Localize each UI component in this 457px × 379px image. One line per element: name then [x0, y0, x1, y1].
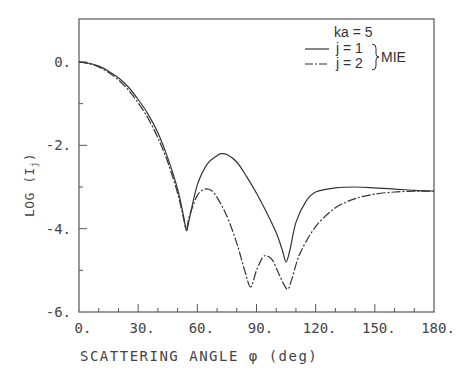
y-axis-title-main: LOG (I — [22, 167, 37, 217]
x-axis-ticks — [99, 304, 415, 312]
legend-annotation: ka = 5 — [334, 24, 373, 40]
legend-brace — [372, 44, 379, 70]
series-line-j2 — [79, 62, 434, 289]
svg-text:LOG (Ij): LOG (Ij) — [22, 153, 39, 217]
x-tick-label: 0. — [75, 320, 92, 336]
series-lines — [79, 62, 434, 289]
legend-label-j1: j = 1 — [335, 40, 363, 56]
y-tick-label: -6. — [46, 304, 71, 320]
x-tick-label: 60. — [189, 320, 214, 336]
y-tick-label: 0. — [54, 54, 71, 70]
x-tick-label: 90. — [248, 320, 273, 336]
x-tick-label: 180. — [421, 320, 455, 336]
y-axis-title-end: ) — [22, 153, 37, 161]
x-tick-label: 150. — [362, 320, 396, 336]
x-tick-label: 30. — [130, 320, 155, 336]
chart: 0.30.60.90.120.150.180. 0.-2.-4.-6. SCAT… — [0, 0, 457, 379]
x-axis-tick-labels: 0.30.60.90.120.150.180. — [75, 320, 455, 336]
y-axis-ticks — [79, 62, 87, 270]
y-axis-tick-labels: 0.-2.-4.-6. — [46, 54, 71, 320]
y-axis-title: LOG (Ij) — [22, 153, 39, 217]
legend-label-j2: j = 2 — [335, 55, 363, 71]
series-line-j1 — [79, 62, 434, 262]
legend-group-label: MIE — [381, 49, 406, 65]
y-tick-label: -4. — [46, 221, 71, 237]
x-axis-title: SCATTERING ANGLE φ (deg) — [80, 348, 318, 364]
y-tick-label: -2. — [46, 137, 71, 153]
legend: ka = 5 j = 1 j = 2 MIE — [305, 24, 406, 71]
x-tick-label: 120. — [303, 320, 337, 336]
